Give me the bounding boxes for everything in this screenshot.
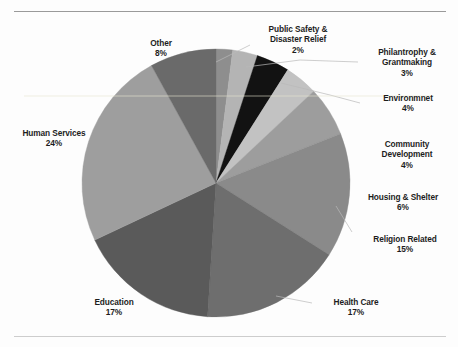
pie-label-religion-related: Religion Related 15% [356, 234, 454, 255]
pie-label-environment: Environmnet 4% [362, 93, 454, 114]
pie-label-health-care-percent: 17% [316, 307, 396, 317]
pie-label-housing-shelter: Housing & Shelter 6% [352, 192, 454, 213]
pie-label-community-development-name-line2: Development [360, 149, 454, 159]
pie-label-religion-related-name: Religion Related [373, 234, 436, 244]
pie-label-religion-related-percent: 15% [356, 244, 454, 254]
pie-label-public-safety-name-line2: Disaster Relief [246, 34, 350, 44]
pie-label-philanthropy-percent: 3% [360, 68, 454, 78]
pie-slice-group [82, 49, 350, 317]
pie-label-education-name: Education [94, 297, 133, 307]
pie-label-philanthropy-name-line2: Grantmaking [360, 57, 454, 67]
pie-label-environment-percent: 4% [362, 103, 454, 113]
pie-chart: Other 8% Public Safety & Disaster Relief… [0, 0, 458, 347]
pie-label-human-services-percent: 24% [8, 138, 100, 148]
pie-label-housing-shelter-percent: 6% [352, 202, 454, 212]
pie-label-human-services-name: Human Services [22, 128, 85, 138]
pie-label-education: Education 17% [78, 297, 150, 318]
pie-label-other-percent: 8% [128, 48, 194, 58]
pie-label-health-care: Health Care 17% [316, 297, 396, 318]
pie-label-community-development-name-line1: Community [385, 139, 430, 149]
pie-label-philanthropy: Philantrophy & Grantmaking 3% [360, 47, 454, 78]
pie-label-other: Other 8% [128, 38, 194, 59]
pie-label-community-development-percent: 4% [360, 160, 454, 170]
pie-label-philanthropy-name-line1: Philantrophy & [378, 47, 436, 57]
pie-label-human-services: Human Services 24% [8, 128, 100, 149]
pie-label-community-development: Community Development 4% [360, 139, 454, 170]
pie-label-public-safety: Public Safety & Disaster Relief 2% [246, 24, 350, 55]
pie-label-other-name: Other [150, 38, 172, 48]
page-canvas: Other 8% Public Safety & Disaster Relief… [0, 0, 458, 347]
pie-label-public-safety-percent: 2% [246, 45, 350, 55]
pie-label-housing-shelter-name: Housing & Shelter [368, 192, 438, 202]
pie-label-education-percent: 17% [78, 307, 150, 317]
pie-label-public-safety-name-line1: Public Safety & [269, 24, 328, 34]
pie-label-health-care-name: Health Care [333, 297, 378, 307]
pie-label-environment-name: Environmnet [383, 93, 433, 103]
